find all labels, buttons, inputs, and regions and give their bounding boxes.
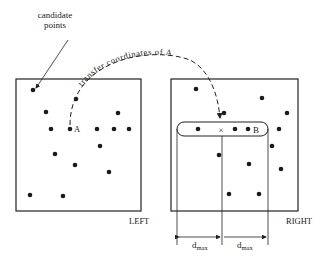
left-candidate-points xyxy=(28,88,132,199)
candidate-arrow xyxy=(36,40,68,88)
candidate-point xyxy=(44,110,49,115)
candidate-point xyxy=(233,127,238,132)
candidate-point xyxy=(49,127,54,132)
left-image-frame xyxy=(16,79,141,211)
candidate-point xyxy=(222,111,227,116)
right-caption: RIGHT xyxy=(286,216,313,226)
candidate-point xyxy=(98,144,103,149)
candidate-point xyxy=(277,127,282,132)
candidate-point xyxy=(260,96,265,101)
candidate-point xyxy=(73,163,78,168)
point-b-label: B xyxy=(253,125,259,135)
candidate-point xyxy=(68,127,73,132)
candidate-point xyxy=(246,127,251,132)
candidate-point xyxy=(257,192,262,197)
candidate-point xyxy=(279,167,284,172)
candidate-point xyxy=(95,127,100,132)
candidate-point xyxy=(31,88,36,93)
transfer-label: transfer coordinates of A xyxy=(76,47,173,88)
stereo-matching-diagram: candidate points transfer coordinates of… xyxy=(0,0,327,265)
candidate-point xyxy=(194,87,199,92)
candidate-label-line1: candidate xyxy=(38,10,72,20)
candidate-point xyxy=(112,127,117,132)
right-image-frame xyxy=(171,79,298,211)
candidate-point xyxy=(196,127,201,132)
candidate-point xyxy=(247,162,252,167)
dmax-left-label: dmax xyxy=(192,240,208,251)
candidate-point xyxy=(270,144,275,149)
candidate-point xyxy=(127,127,132,132)
point-a-label: A xyxy=(74,124,81,134)
candidate-point xyxy=(53,152,58,157)
candidate-label-line2: points xyxy=(44,20,67,30)
candidate-point xyxy=(28,193,33,198)
candidate-point xyxy=(217,153,222,158)
candidate-point xyxy=(285,111,290,116)
right-candidate-points xyxy=(194,87,290,197)
transferred-point-cross: × xyxy=(218,125,223,135)
candidate-point xyxy=(116,111,121,116)
candidate-point xyxy=(61,194,66,199)
left-caption: LEFT xyxy=(129,216,150,226)
candidate-point xyxy=(107,170,112,175)
dmax-right-label: dmax xyxy=(237,240,253,251)
candidate-point xyxy=(227,192,232,197)
